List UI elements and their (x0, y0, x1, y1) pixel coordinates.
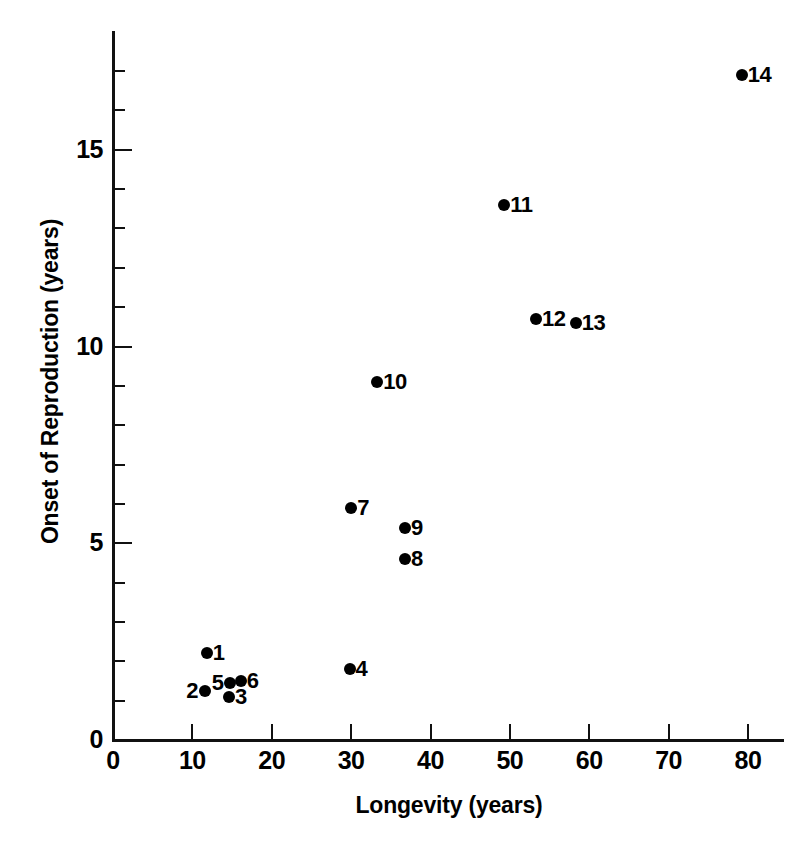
data-point-marker (201, 647, 213, 659)
x-tick-major (191, 724, 193, 740)
x-tick-major (271, 724, 273, 740)
y-tick-major (115, 346, 132, 348)
data-point-marker (223, 691, 235, 703)
x-tick-label: 0 (83, 748, 143, 773)
data-point-label: 5 (212, 672, 224, 694)
data-point-label: 2 (186, 680, 198, 702)
data-point-marker (736, 69, 748, 81)
data-point-label: 3 (235, 686, 247, 708)
x-tick-label: 60 (559, 748, 619, 773)
y-tick-major (115, 739, 132, 741)
scatter-plot-figure: 051015 01020304050607080 123456789101112… (0, 0, 808, 842)
y-tick-label: 15 (59, 137, 103, 162)
data-point-marker (345, 502, 357, 514)
y-tick-minor (115, 621, 125, 623)
data-point-label: 9 (411, 517, 423, 539)
y-tick-minor (115, 109, 125, 111)
y-tick-minor (115, 582, 125, 584)
x-axis-title: Longevity (years) (113, 792, 785, 819)
y-tick-minor (115, 188, 125, 190)
data-point-marker (498, 199, 510, 211)
y-tick-minor (115, 267, 125, 269)
y-tick-label: 5 (59, 530, 103, 555)
y-tick-label: 10 (59, 334, 103, 359)
y-tick-minor (115, 385, 125, 387)
y-tick-minor (115, 70, 125, 72)
x-tick-major (588, 724, 590, 740)
x-tick-major (350, 724, 352, 740)
data-point-marker (344, 663, 356, 675)
x-tick-label: 50 (480, 748, 540, 773)
y-tick-minor (115, 503, 125, 505)
x-tick-major (509, 724, 511, 740)
data-point-marker (530, 313, 542, 325)
x-tick-label: 30 (321, 748, 381, 773)
data-point-marker (570, 317, 582, 329)
data-point-label: 10 (383, 371, 406, 393)
data-point-label: 12 (542, 308, 565, 330)
x-tick-major (430, 724, 432, 740)
x-axis-line (112, 739, 784, 742)
data-point-label: 6 (247, 670, 259, 692)
y-tick-minor (115, 306, 125, 308)
data-point-marker (235, 675, 247, 687)
x-tick-label: 70 (639, 748, 699, 773)
data-point-label: 11 (510, 194, 532, 216)
y-tick-minor (115, 227, 125, 229)
y-tick-minor (115, 464, 125, 466)
data-point-label: 7 (357, 497, 369, 519)
x-tick-label: 10 (162, 748, 222, 773)
data-point-label: 13 (582, 312, 605, 334)
y-tick-major (115, 149, 132, 151)
x-tick-label: 40 (401, 748, 461, 773)
y-tick-minor (115, 424, 125, 426)
data-point-marker (399, 553, 411, 565)
x-tick-label: 20 (242, 748, 302, 773)
data-point-label: 8 (411, 548, 423, 570)
y-tick-minor (115, 700, 125, 702)
data-point-marker (199, 685, 211, 697)
data-point-marker (399, 522, 411, 534)
y-tick-major (115, 542, 132, 544)
data-point-marker (371, 376, 383, 388)
y-tick-minor (115, 660, 125, 662)
data-point-label: 14 (748, 64, 771, 86)
data-point-label: 1 (213, 642, 225, 664)
x-tick-major (747, 724, 749, 740)
x-tick-label: 80 (718, 748, 778, 773)
x-tick-major (668, 724, 670, 740)
y-axis-title: Onset of Reproduction (years) (37, 26, 64, 737)
data-point-label: 4 (356, 658, 368, 680)
